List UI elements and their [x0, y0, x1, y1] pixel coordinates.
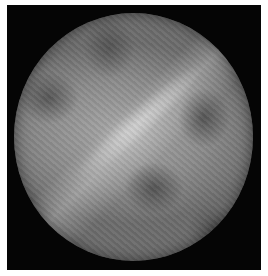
disk-rim-shading	[14, 13, 253, 261]
image-frame	[7, 5, 261, 270]
circular-disk	[14, 13, 253, 261]
